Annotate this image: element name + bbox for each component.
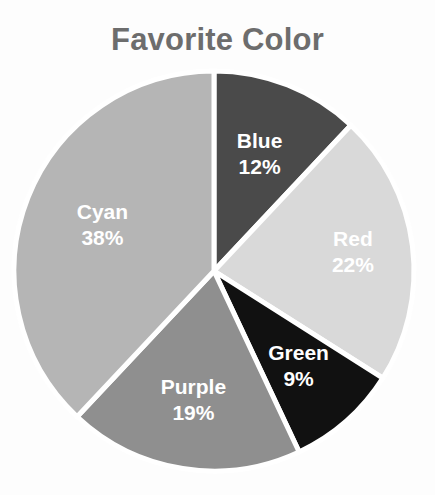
pie-chart-canvas: Blue12%Red22%Green9%Purple19%Cyan38%	[0, 0, 435, 495]
pie-slice-value-purple: 19%	[172, 401, 214, 424]
pie-chart-figure: Favorite Color Blue12%Red22%Green9%Purpl…	[0, 0, 435, 495]
pie-slice-value-blue: 12%	[239, 155, 281, 178]
pie-slice-label-green: Green	[268, 341, 329, 364]
pie-slice-label-purple: Purple	[161, 375, 226, 398]
pie-slice-label-cyan: Cyan	[77, 200, 128, 223]
pie-slice-value-green: 9%	[283, 367, 314, 390]
pie-slice-value-cyan: 38%	[81, 226, 123, 249]
pie-slice-label-red: Red	[333, 227, 373, 250]
pie-slice-value-red: 22%	[332, 253, 374, 276]
pie-slice-label-blue: Blue	[237, 129, 283, 152]
